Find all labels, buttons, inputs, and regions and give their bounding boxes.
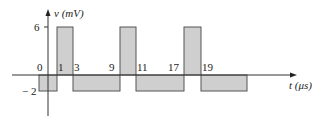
y-axis-label: v (mV): [54, 7, 84, 20]
y-tick-label-neg2: − 2: [22, 85, 36, 97]
pulse-waveform-chart: v (mV) 6 − 2 0 1 3 9 11 17 19 t (μs): [0, 0, 334, 125]
y-tick-label-6: 6: [34, 21, 40, 33]
x-tick-label-1: 1: [58, 61, 64, 73]
x-tick-label-19: 19: [202, 61, 214, 73]
x-tick-label-3: 3: [74, 61, 80, 73]
waveform-fill: [39, 27, 247, 91]
y-axis-arrow-icon: [46, 9, 51, 16]
x-tick-label-0: 0: [37, 61, 43, 73]
x-axis-arrow-icon: [290, 73, 297, 78]
x-tick-label-11: 11: [137, 61, 148, 73]
x-tick-label-17: 17: [168, 61, 180, 73]
x-axis-label: t (μs): [289, 79, 312, 92]
x-tick-label-9: 9: [109, 61, 115, 73]
